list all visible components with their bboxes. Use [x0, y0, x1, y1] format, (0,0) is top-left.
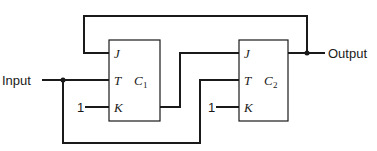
- c1-pin-t: T: [114, 73, 122, 88]
- c2-pin-t: T: [244, 73, 252, 88]
- input-label: Input: [2, 73, 31, 88]
- c1-name: C: [134, 73, 143, 88]
- output-label: Output: [328, 46, 367, 61]
- c1-pin-k: K: [113, 100, 124, 115]
- output-junction-dot: [305, 51, 310, 56]
- c2-name: C: [264, 73, 273, 88]
- c2-k-constant: 1: [208, 100, 215, 115]
- c2-subscript: 2: [273, 80, 278, 90]
- c1-subscript: 1: [143, 80, 148, 90]
- c1-k-constant: 1: [77, 100, 84, 115]
- counter-circuit-diagram: Input Output 1 1 J T K C 1 J T K C 2: [0, 0, 377, 151]
- c2-pin-k: K: [243, 100, 254, 115]
